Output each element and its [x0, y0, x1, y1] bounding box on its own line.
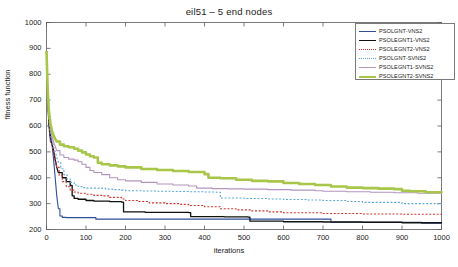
y-tick-label: 1000: [16, 18, 42, 27]
x-tick-label: 700: [308, 233, 338, 242]
x-tick-label: 500: [229, 233, 259, 242]
y-tick-label: 900: [16, 43, 42, 52]
x-tick-label: 900: [387, 233, 417, 242]
legend-line-swatch: [359, 71, 376, 80]
legend-item[interactable]: PSOLEGNT2-VNS2: [356, 44, 454, 53]
y-tick-label: 500: [16, 147, 42, 156]
legend-label: PSOLEGNT2-SVNS2: [379, 73, 434, 79]
figure: eil51 – 5 end nodes fitness function ite…: [0, 0, 458, 267]
legend-line-swatch: [359, 44, 376, 53]
legend-label: PSOLEGNT1-VNS2: [379, 37, 430, 43]
y-tick-label: 300: [16, 199, 42, 208]
y-tick-label: 600: [16, 121, 42, 130]
legend-item[interactable]: PSOLGNT-SVNS2: [356, 53, 454, 62]
legend-line-swatch: [359, 53, 376, 62]
legend-item[interactable]: PSOLEGNT2-SVNS2: [356, 71, 454, 80]
legend-label: PSOLGNT-VNS2: [379, 28, 423, 34]
legend-item[interactable]: PSOLEGNT1-SVNS2: [356, 62, 454, 71]
legend-label: PSOLEGNT2-VNS2: [379, 46, 430, 52]
legend-label: PSOLEGNT1-SVNS2: [379, 64, 434, 70]
y-tick-label: 700: [16, 95, 42, 104]
x-tick-label: 800: [348, 233, 378, 242]
legend: PSOLGNT-VNS2PSOLEGNT1-VNS2PSOLEGNT2-VNS2…: [355, 23, 455, 80]
x-tick-label: 300: [150, 233, 180, 242]
x-tick-label: 600: [269, 233, 299, 242]
x-tick-label: 0: [32, 233, 62, 242]
x-tick-label: 400: [190, 233, 220, 242]
y-tick-label: 400: [16, 173, 42, 182]
y-tick-label: 800: [16, 69, 42, 78]
x-tick-label: 100: [71, 233, 101, 242]
x-tick-label: 1000: [427, 233, 457, 242]
legend-line-swatch: [359, 26, 376, 35]
x-tick-label: 200: [111, 233, 141, 242]
legend-item[interactable]: PSOLGNT-VNS2: [356, 26, 454, 35]
legend-item[interactable]: PSOLEGNT1-VNS2: [356, 35, 454, 44]
legend-label: PSOLGNT-SVNS2: [379, 55, 426, 61]
legend-line-swatch: [359, 62, 376, 71]
legend-line-swatch: [359, 35, 376, 44]
